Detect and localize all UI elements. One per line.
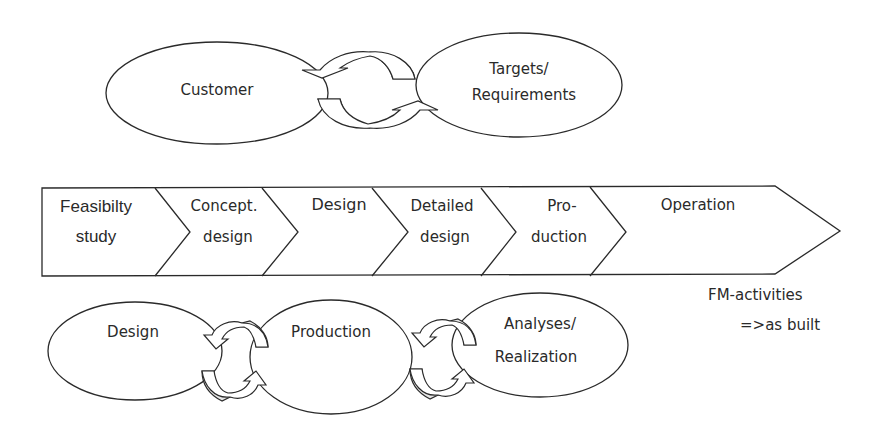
targets-label-line2: Requirements (459, 88, 589, 103)
analyses-label-line2: Realization (486, 350, 586, 365)
phase-5-line1: Pro- (530, 199, 594, 214)
design-label: Design (92, 325, 174, 340)
phase-2-line2: design (192, 230, 264, 245)
phase-4-line2: design (412, 230, 478, 245)
phase-3-line1: Design (302, 197, 376, 213)
phase-5-line2: duction (519, 230, 599, 245)
analyses-label-line1: Analyses/ (490, 317, 590, 332)
phase-1-line1: Feasibilty (50, 198, 142, 215)
production-label: Production (276, 325, 386, 340)
targets-node (416, 33, 622, 137)
analyses-node (452, 293, 628, 397)
customer-label: Customer (160, 83, 274, 98)
fm-activities-note: FM-activities (708, 286, 803, 304)
phase-1-line2: study (50, 228, 142, 245)
phase-2-line1: Concept. (188, 199, 260, 214)
phase-4-line1: Detailed (402, 199, 482, 214)
targets-label-line1: Targets/ (459, 62, 579, 77)
phase-6-line1: Operation (648, 198, 748, 213)
design-node (48, 302, 222, 400)
production-node (250, 300, 412, 414)
as-built-note: =>as built (740, 316, 820, 334)
